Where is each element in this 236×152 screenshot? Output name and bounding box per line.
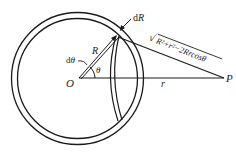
dR-pointer	[122, 19, 131, 28]
label-dtheta: dθ	[66, 55, 76, 65]
label-dR: dR	[133, 12, 144, 23]
shell-diagram: O P R θ r dR dθ √ R²+r²−2Rrcosθ	[0, 0, 236, 152]
dtheta-pointer	[78, 61, 87, 65]
label-r: r	[161, 78, 165, 89]
label-O: O	[66, 77, 74, 89]
label-R: R	[91, 45, 98, 56]
label-theta: θ	[96, 65, 101, 75]
label-P: P	[225, 72, 233, 84]
slant-distance-label: R²+r²−2Rrcosθ	[154, 35, 208, 64]
